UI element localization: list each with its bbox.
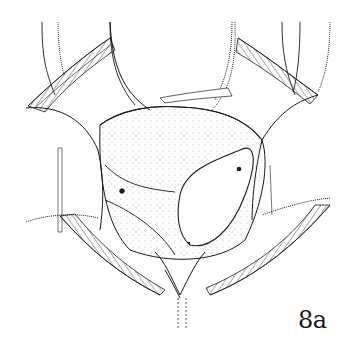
left-lateral-wall — [26, 108, 103, 232]
left-upper-abdominal-wall — [28, 38, 115, 112]
illustration-canvas — [0, 0, 349, 352]
right-upper-abdominal-wall — [236, 38, 318, 104]
surgical-illustration: 8a — [0, 0, 349, 352]
figure-label: 8a — [298, 308, 327, 332]
